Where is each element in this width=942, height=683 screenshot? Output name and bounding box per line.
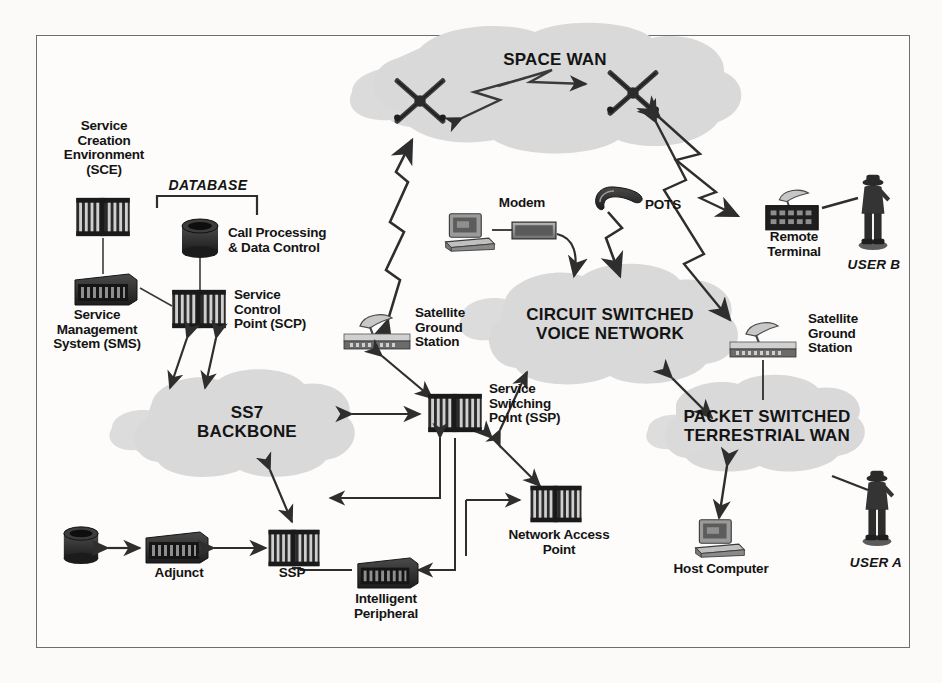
call-processing-data-control-icon [182, 219, 218, 258]
cloud-label-ss7-backbone: SS7 BACKBONE [167, 403, 327, 441]
link-ss7-backbone-to-ssp-bottom [270, 470, 292, 522]
network-access-point-icon [531, 486, 582, 522]
label-intelligent-peripheral: Intelligent Peripheral [330, 592, 442, 621]
label-service-control-point: Service Control Point (SCP) [234, 288, 334, 332]
adjunct-disk-icon [64, 527, 98, 564]
host-computer-icon [696, 520, 745, 558]
service-creation-environment-icon [76, 198, 129, 236]
label-database: DATABASE [158, 178, 258, 193]
link-ground-station-left-to-ssp [382, 356, 432, 398]
label-modem: Modem [487, 196, 557, 211]
satellite-ground-station-left-icon [344, 315, 410, 349]
label-satellite-ground-station-left: Satellite Ground Station [415, 306, 501, 350]
label-user-b: USER B [838, 258, 910, 273]
label-ssp-bottom: SSP [266, 566, 318, 581]
cloud-label-space-wan: SPACE WAN [455, 50, 655, 69]
label-user-a: USER A [840, 556, 912, 571]
diagram-canvas: SPACE WAN CIRCUIT SWITCHED VOICE NETWORK… [0, 0, 942, 683]
satellite-ground-station-right-icon [730, 323, 796, 357]
cloud-label-circuit-switched-voice-network: CIRCUIT SWITCHED VOICE NETWORK [495, 305, 725, 343]
adjunct-icon [146, 532, 208, 563]
label-pots: POTS [638, 198, 688, 213]
link-sms-to-scp [140, 288, 172, 306]
link-ground-station-left-to-satellite-left [386, 140, 412, 320]
label-network-access-point: Network Access Point [497, 528, 621, 557]
link-packet-wan-to-user-a [832, 476, 868, 490]
link-packet-wan-to-host-computer [719, 466, 727, 518]
user-b-icon [859, 175, 890, 250]
label-service-management-system: Service Management System (SMS) [33, 308, 161, 352]
service-control-point-icon [172, 290, 225, 328]
modem-icon [512, 222, 556, 239]
intelligent-peripheral-icon [358, 558, 418, 588]
label-service-creation-environment: Service Creation Environment (SCE) [48, 119, 160, 177]
link-ssp-to-network-access-point [492, 438, 540, 486]
ssp-bottom-icon [269, 530, 320, 566]
workstation-pc-icon [446, 214, 495, 252]
remote-terminal-icon [766, 190, 818, 230]
link-remote-terminal-to-user-b [822, 198, 858, 208]
cloud-label-packet-switched-terrestrial-wan: PACKET SWITCHED TERRESTRIAL WAN [662, 407, 872, 445]
label-remote-terminal: Remote Terminal [752, 230, 836, 259]
service-switching-point-icon [428, 394, 481, 432]
pots-telephone-icon [596, 187, 642, 210]
label-call-processing-data-control: Call Processing & Data Control [228, 226, 358, 255]
database-bracket-icon [157, 196, 257, 215]
user-a-icon [863, 471, 894, 546]
label-host-computer: Host Computer [659, 562, 783, 577]
label-satellite-ground-station-right: Satellite Ground Station [808, 312, 894, 356]
service-management-system-icon [75, 274, 137, 305]
label-service-switching-point: Service Switching Point (SSP) [489, 382, 593, 426]
link-modem-to-circuit-switched-voice-network [557, 234, 576, 276]
label-adjunct: Adjunct [143, 566, 215, 581]
